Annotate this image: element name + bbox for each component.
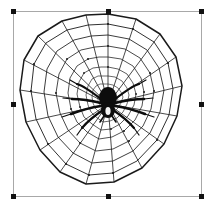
handle-middle-right[interactable]: [199, 102, 204, 107]
handle-bottom-left[interactable]: [11, 194, 16, 199]
handle-top-right[interactable]: [199, 9, 204, 14]
handle-middle-left[interactable]: [11, 102, 16, 107]
spider-web-image[interactable]: [14, 12, 201, 196]
handle-top-left[interactable]: [11, 9, 16, 14]
handle-bottom-center[interactable]: [106, 194, 111, 199]
handle-top-center[interactable]: [106, 9, 111, 14]
image-selection-frame[interactable]: [13, 11, 202, 197]
handle-bottom-right[interactable]: [199, 194, 204, 199]
image-canvas: [0, 0, 216, 210]
